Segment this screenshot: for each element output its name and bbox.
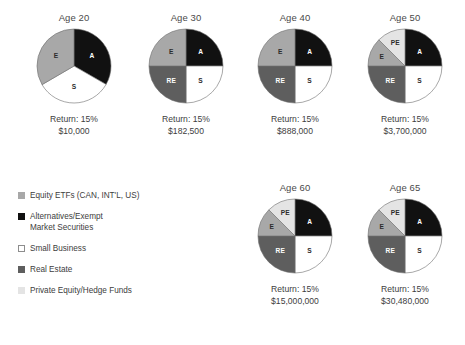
- pie-slice-label-re: RE: [386, 247, 396, 254]
- pie-card-age-30: Age 30ASREEReturn: 15%$182,500: [131, 12, 241, 137]
- pie-return-label: Return: 15%: [240, 113, 350, 125]
- legend: Equity ETFs (CAN, INT'L, US)Alternatives…: [18, 190, 218, 296]
- pie-card-age-50: Age 50ASREEPEReturn: 15%$3,700,000: [350, 12, 460, 137]
- legend-label: Alternatives/ExemptMarket Securities: [30, 211, 103, 233]
- pie-slice-label-re: RE: [167, 77, 177, 84]
- pie-svg: ASREE: [148, 28, 224, 104]
- pie-slice-label-e: E: [278, 48, 283, 55]
- pie-slice-label-e: E: [169, 48, 174, 55]
- pie-slice-a: [405, 29, 442, 66]
- pie-slice-re: [149, 66, 186, 103]
- legend-label: Private Equity/Hedge Funds: [30, 285, 132, 296]
- pie-slice-s: [186, 66, 223, 103]
- pie-svg: ASREEPE: [257, 198, 333, 274]
- pie-graphic: ASREE: [148, 28, 224, 104]
- pie-title: Age 65: [350, 182, 460, 193]
- pie-slice-label-a: A: [417, 48, 422, 55]
- pie-slice-label-s: S: [307, 247, 312, 254]
- legend-swatch-icon-a: [18, 213, 25, 220]
- pie-slice-label-e: E: [379, 53, 384, 60]
- pie-slice-label-a: A: [307, 48, 312, 55]
- pie-slice-label-s: S: [198, 77, 203, 84]
- legend-swatch-icon-pe: [18, 287, 25, 294]
- pie-slice-label-pe: PE: [391, 39, 401, 46]
- pie-slice-e: [258, 29, 295, 66]
- pie-return-label: Return: 15%: [19, 113, 129, 125]
- pie-slice-s: [295, 236, 332, 273]
- pie-slice-a: [295, 199, 332, 236]
- pie-return-label: Return: 15%: [131, 113, 241, 125]
- pie-slice-re: [368, 66, 405, 103]
- pie-slice-label-s: S: [417, 77, 422, 84]
- pie-title: Age 40: [240, 12, 350, 23]
- pie-amount-value: $888,000: [240, 125, 350, 137]
- legend-swatch-icon-s: [18, 245, 25, 252]
- legend-label-line1: Private Equity/Hedge Funds: [30, 286, 132, 295]
- pie-amount-value: $182,500: [131, 125, 241, 137]
- pie-slice-label-s: S: [417, 247, 422, 254]
- pie-amount-value: $30,480,000: [350, 295, 460, 307]
- pie-amount-value: $15,000,000: [240, 295, 350, 307]
- pie-slice-label-re: RE: [276, 247, 286, 254]
- legend-label-line1: Real Estate: [30, 265, 72, 274]
- pie-graphic: ASREEPE: [257, 198, 333, 274]
- pie-title: Age 50: [350, 12, 460, 23]
- pie-graphic: ASREE: [257, 28, 333, 104]
- pie-slice-s: [295, 66, 332, 103]
- pie-card-age-65: Age 65ASREEPEReturn: 15%$30,480,000: [350, 182, 460, 307]
- legend-label: Real Estate: [30, 264, 72, 275]
- pie-title: Age 20: [19, 12, 129, 23]
- pie-slice-re: [258, 66, 295, 103]
- pie-slice-label-e: E: [54, 52, 59, 59]
- legend-item-a[interactable]: Alternatives/ExemptMarket Securities: [18, 211, 218, 233]
- pie-svg: ASREEPE: [367, 28, 443, 104]
- pie-slice-a: [405, 199, 442, 236]
- pie-slice-label-pe: PE: [281, 209, 291, 216]
- pie-slice-label-s: S: [72, 83, 77, 90]
- pie-slice-a: [295, 29, 332, 66]
- pie-amount-value: $3,700,000: [350, 125, 460, 137]
- pie-slice-s: [405, 236, 442, 273]
- pie-slice-label-a: A: [198, 48, 203, 55]
- pie-slice-label-a: A: [417, 218, 422, 225]
- legend-label-line1: Equity ETFs (CAN, INT'L, US): [30, 191, 139, 200]
- pie-footer: Return: 15%$3,700,000: [350, 113, 460, 137]
- pie-card-age-40: Age 40ASREEReturn: 15%$888,000: [240, 12, 350, 137]
- pie-slice-e: [149, 29, 186, 66]
- pie-card-age-60: Age 60ASREEPEReturn: 15%$15,000,000: [240, 182, 350, 307]
- pie-slice-label-re: RE: [276, 77, 286, 84]
- pie-slice-label-a: A: [307, 218, 312, 225]
- legend-label-line2: Market Securities: [30, 222, 103, 233]
- pie-return-label: Return: 15%: [350, 283, 460, 295]
- legend-label: Equity ETFs (CAN, INT'L, US): [30, 190, 139, 201]
- legend-item-pe[interactable]: Private Equity/Hedge Funds: [18, 285, 218, 296]
- pie-slice-s: [405, 66, 442, 103]
- pie-footer: Return: 15%$182,500: [131, 113, 241, 137]
- pie-footer: Return: 15%$10,000: [19, 113, 129, 137]
- legend-swatch-icon-e: [18, 192, 25, 199]
- pie-svg: ASREE: [257, 28, 333, 104]
- legend-label: Small Business: [30, 243, 86, 254]
- pie-footer: Return: 15%$15,000,000: [240, 283, 350, 307]
- legend-label-line1: Small Business: [30, 244, 86, 253]
- legend-item-s[interactable]: Small Business: [18, 243, 218, 254]
- pie-amount-value: $10,000: [19, 125, 129, 137]
- pie-slice-label-re: RE: [386, 77, 396, 84]
- pie-slice-label-s: S: [307, 77, 312, 84]
- legend-item-re[interactable]: Real Estate: [18, 264, 218, 275]
- pie-slice-re: [258, 236, 295, 273]
- pie-card-age-20: Age 20ASEReturn: 15%$10,000: [19, 12, 129, 137]
- legend-item-e[interactable]: Equity ETFs (CAN, INT'L, US): [18, 190, 218, 201]
- pie-svg: ASREEPE: [367, 198, 443, 274]
- pie-slice-re: [368, 236, 405, 273]
- pie-graphic: ASREEPE: [367, 28, 443, 104]
- legend-swatch-icon-re: [18, 266, 25, 273]
- pie-footer: Return: 15%$30,480,000: [350, 283, 460, 307]
- pie-slice-label-a: A: [89, 52, 94, 59]
- pie-return-label: Return: 15%: [240, 283, 350, 295]
- pie-title: Age 30: [131, 12, 241, 23]
- legend-label-line1: Alternatives/Exempt: [30, 212, 103, 221]
- pie-return-label: Return: 15%: [350, 113, 460, 125]
- pie-slice-label-e: E: [379, 223, 384, 230]
- pie-slice-a: [186, 29, 223, 66]
